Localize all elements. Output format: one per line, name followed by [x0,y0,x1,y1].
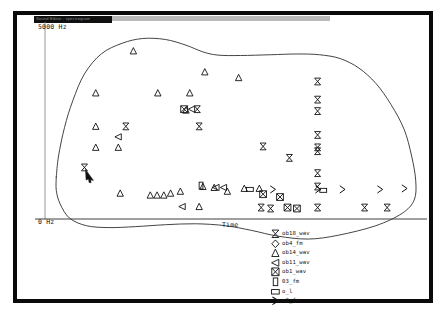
legend-item-ob11_wav[interactable]: ob11_wav [269,258,310,268]
data-point[interactable] [179,203,185,209]
data-point[interactable] [315,204,321,211]
data-point[interactable] [315,96,321,103]
legend-item-label: ob1_wav [282,267,306,277]
data-point[interactable] [340,186,345,193]
data-point[interactable] [181,106,188,113]
data-point[interactable] [377,186,382,193]
data-point[interactable] [196,123,202,130]
data-point[interactable] [362,204,368,211]
data-point[interactable] [277,194,284,201]
boundary-contour [56,38,416,239]
y-axis-min-label: 0 Hz [38,218,54,226]
data-point[interactable] [93,144,99,150]
data-point[interactable] [115,144,121,150]
data-point[interactable] [167,190,173,196]
legend-item-label: ob14_wav [282,248,310,258]
application-window-frame: Sound Editor - spectrogram 5000 Hz 0 Hz … [13,11,433,303]
data-point[interactable] [147,192,153,198]
data-point[interactable] [194,106,200,113]
x-axis-label: Time [222,221,238,229]
triangle-up-icon [269,248,282,258]
data-point[interactable] [161,192,167,198]
data-point[interactable] [117,190,123,196]
legend-item-label: o_l [282,287,292,297]
legend-item-ob14_wav[interactable]: ob14_wav [269,248,310,258]
legend-item-label: ob4_fm [282,239,303,249]
legend[interactable]: ob18_wavob4_fmob14_wavob11_wavob1_wav03_… [269,229,310,306]
data-markers-layer[interactable] [81,48,407,212]
data-point[interactable] [199,182,203,189]
rect-wide-icon [269,287,282,297]
data-point[interactable] [258,204,264,211]
legend-item-ob18_wav[interactable]: ob18_wav [269,229,310,239]
legend-item-ob4_fm[interactable]: ob4_fm [269,239,310,249]
legend-item-o2_fm[interactable]: o2_fm [269,296,310,306]
scatter-plot-svg [17,15,429,299]
data-point[interactable] [155,90,161,96]
data-point[interactable] [268,205,274,212]
data-point[interactable] [202,69,208,75]
bowtie-icon [269,229,282,239]
legend-item-ob1_wav[interactable]: ob1_wav [269,267,310,277]
data-point[interactable] [154,192,160,198]
data-point[interactable] [196,203,202,209]
data-point[interactable] [81,164,87,171]
data-point[interactable] [220,184,226,190]
data-point[interactable] [224,188,230,194]
data-point[interactable] [115,134,121,140]
series-03_fm[interactable] [199,182,203,189]
data-point[interactable] [294,205,301,212]
legend-item-03_fm[interactable]: 03_fm [269,277,310,287]
chevron-right-icon [269,296,282,306]
data-point[interactable] [315,132,321,139]
series-ob11_wav[interactable] [115,106,227,210]
y-axis-max-label: 5000 Hz [38,23,67,31]
data-point[interactable] [177,188,183,194]
data-point[interactable] [315,78,321,85]
data-point[interactable] [235,74,241,80]
mouse-cursor-arrow-icon [85,169,93,182]
data-point[interactable] [384,204,390,211]
diamond-icon [269,239,282,249]
data-point[interactable] [187,90,193,96]
data-point[interactable] [315,170,321,177]
data-point[interactable] [123,123,129,130]
data-point[interactable] [260,143,266,150]
data-point[interactable] [93,123,99,129]
legend-item-label: ob18_wav [282,229,310,239]
triangle-left-icon [269,258,282,268]
data-point[interactable] [284,204,291,211]
screenshot-root: Sound Editor - spectrogram 5000 Hz 0 Hz … [0,0,446,320]
plot-canvas[interactable]: 5000 Hz 0 Hz Time [17,15,429,299]
legend-item-label: ob11_wav [282,258,310,268]
axis-lines [35,22,427,219]
series-ob18_wav[interactable] [81,78,390,212]
legend-item-label: o2_fm [282,296,299,306]
series-ob1_wav[interactable] [181,106,301,212]
bowtie-x-icon [269,267,282,277]
data-point[interactable] [130,48,136,54]
series-o2_fm[interactable] [270,185,407,193]
data-point[interactable] [402,185,407,192]
data-point[interactable] [286,154,292,161]
data-point[interactable] [93,90,99,96]
data-point[interactable] [270,186,275,193]
data-point[interactable] [315,108,321,115]
legend-item-o_l[interactable]: o_l [269,287,310,297]
series-ob14_wav[interactable] [93,48,263,210]
rect-tall-icon [269,277,282,287]
legend-item-label: 03_fm [282,277,299,287]
data-point[interactable] [188,106,194,112]
